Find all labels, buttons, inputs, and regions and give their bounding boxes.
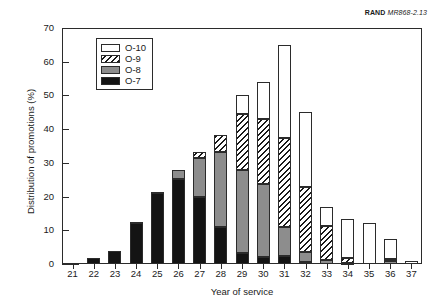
bar-segment-o-9[interactable]: [257, 119, 270, 184]
x-tick-label: 31: [273, 268, 295, 279]
y-tick-label: 40: [22, 123, 54, 134]
y-tick-label: 0: [22, 258, 54, 269]
figure-container: RAND MR868-2.13 Distribution of promotio…: [0, 0, 436, 306]
bar-segment-o-7[interactable]: [214, 227, 227, 264]
bar-segment-o-8[interactable]: [172, 170, 185, 179]
x-tick-label: 33: [316, 268, 338, 279]
x-tick-label: 21: [62, 268, 84, 279]
bar-segment-o-9[interactable]: [278, 138, 291, 227]
y-tick-label: 70: [22, 22, 54, 33]
bar-segment-o-10[interactable]: [320, 207, 333, 226]
x-tick-label: 29: [231, 268, 253, 279]
bar-group[interactable]: [172, 28, 185, 264]
bar-segment-o-10[interactable]: [405, 261, 418, 264]
bar-segment-o-7[interactable]: [236, 253, 249, 264]
bar-segment-o-8[interactable]: [278, 227, 291, 256]
bar-segment-o-8[interactable]: [214, 152, 227, 227]
source-tag-id: MR868-2.13: [387, 9, 427, 16]
legend-item-o-7[interactable]: O-7: [101, 75, 146, 86]
bar-segment-o-8[interactable]: [193, 158, 206, 197]
x-tick-label: 24: [125, 268, 147, 279]
x-tick-label: 26: [167, 268, 189, 279]
legend-label-o-7: O-7: [125, 75, 141, 86]
bar-group[interactable]: [278, 28, 291, 264]
x-tick-label: 22: [83, 268, 105, 279]
x-tick-label: 36: [379, 268, 401, 279]
bar-segment-o-10[interactable]: [236, 95, 249, 114]
bar-group[interactable]: [320, 28, 333, 264]
x-tick-label: 28: [210, 268, 232, 279]
bar-group[interactable]: [363, 28, 376, 264]
bar-segment-o-7[interactable]: [257, 257, 270, 264]
bar-group[interactable]: [236, 28, 249, 264]
y-tick-label: 10: [22, 224, 54, 235]
x-tick-label: 34: [337, 268, 359, 279]
bar-segment-o-7[interactable]: [66, 263, 79, 265]
legend-label-o-10: O-10: [125, 42, 146, 53]
bar-group[interactable]: [66, 28, 79, 264]
bar-group[interactable]: [299, 28, 312, 264]
legend-swatch-o-8: [101, 66, 120, 74]
x-tick-label: 25: [146, 268, 168, 279]
y-tick-label: 50: [22, 89, 54, 100]
bar-segment-o-8[interactable]: [236, 170, 249, 253]
legend-label-o-9: O-9: [125, 53, 141, 64]
y-tick-label: 60: [22, 56, 54, 67]
bar-segment-o-8[interactable]: [341, 263, 354, 265]
legend-item-o-8[interactable]: O-8: [101, 64, 146, 75]
bar-group[interactable]: [193, 28, 206, 264]
bar-segment-o-8[interactable]: [384, 261, 397, 264]
legend-swatch-o-9: [101, 55, 120, 63]
bar-group[interactable]: [257, 28, 270, 264]
bar-segment-o-8[interactable]: [130, 222, 143, 224]
bar-segment-o-10[interactable]: [341, 219, 354, 258]
bar-segment-o-7[interactable]: [172, 179, 185, 264]
legend-item-o-9[interactable]: O-9: [101, 53, 146, 64]
legend-swatch-o-10: [101, 44, 120, 52]
bar-segment-o-9[interactable]: [320, 226, 333, 260]
legend-item-o-10[interactable]: O-10: [101, 42, 146, 53]
bar-group[interactable]: [405, 28, 418, 264]
legend-swatch-o-7: [101, 77, 120, 85]
bar-segment-o-9[interactable]: [236, 114, 249, 170]
bar-segment-o-9[interactable]: [341, 258, 354, 263]
bar-segment-o-9[interactable]: [214, 135, 227, 153]
bar-segment-o-7[interactable]: [193, 197, 206, 264]
legend-label-o-8: O-8: [125, 64, 141, 75]
bar-segment-o-7[interactable]: [87, 258, 100, 264]
bar-segment-o-8[interactable]: [151, 192, 164, 194]
bar-group[interactable]: [341, 28, 354, 264]
x-tick-label: 23: [104, 268, 126, 279]
x-tick-label: 27: [189, 268, 211, 279]
x-tick-label: 30: [252, 268, 274, 279]
bar-group[interactable]: [214, 28, 227, 264]
bar-segment-o-7[interactable]: [130, 223, 143, 264]
x-tick-label: 37: [400, 268, 422, 279]
bar-segment-o-7[interactable]: [108, 251, 121, 264]
source-tag: RAND MR868-2.13: [365, 9, 427, 16]
bar-segment-o-9[interactable]: [384, 259, 397, 261]
legend: O-10O-9O-8O-7: [96, 38, 153, 90]
bar-segment-o-10[interactable]: [257, 82, 270, 119]
bar-group[interactable]: [384, 28, 397, 264]
bar-segment-o-10[interactable]: [363, 223, 376, 264]
bar-segment-o-8[interactable]: [320, 260, 333, 264]
y-tick-label: 20: [22, 191, 54, 202]
bar-segment-o-7[interactable]: [151, 193, 164, 264]
x-tick-label: 35: [358, 268, 380, 279]
bar-segment-o-10[interactable]: [384, 239, 397, 260]
bar-segment-o-7[interactable]: [278, 256, 291, 264]
bar-segment-o-7[interactable]: [299, 262, 312, 264]
bar-segment-o-8[interactable]: [299, 252, 312, 263]
bar-segment-o-10[interactable]: [299, 112, 312, 187]
bar-segment-o-10[interactable]: [278, 45, 291, 138]
x-axis-label: Year of service: [62, 286, 422, 297]
y-axis-label: Distribution of promotions (%): [25, 52, 36, 252]
bar-segment-o-9[interactable]: [193, 152, 206, 158]
source-tag-publisher: RAND: [365, 9, 386, 16]
x-tick-label: 32: [295, 268, 317, 279]
y-tick-label: 30: [22, 157, 54, 168]
bar-segment-o-8[interactable]: [257, 184, 270, 256]
bar-segment-o-9[interactable]: [299, 187, 312, 251]
